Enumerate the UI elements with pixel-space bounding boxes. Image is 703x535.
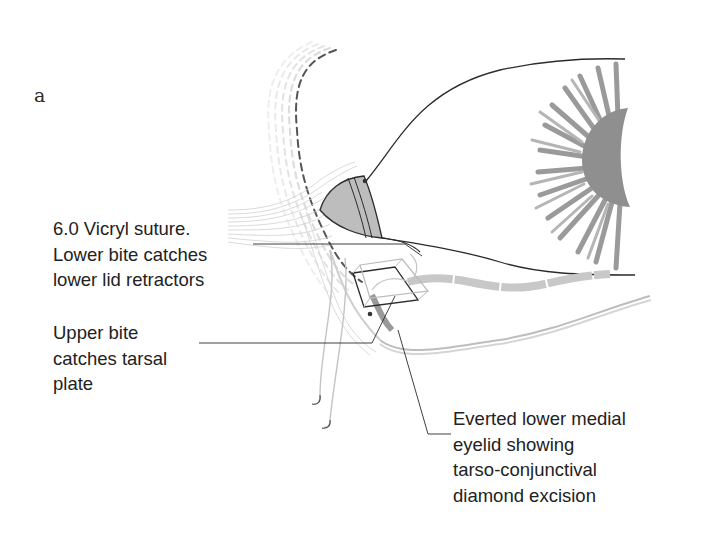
label-upper-bite: Upper bite catches tarsal plate [53, 320, 167, 397]
label-line: Lower bite catches [53, 242, 207, 268]
label-line: Everted lower medial [453, 406, 626, 432]
panel-letter: a [34, 84, 45, 106]
everted-tarsus [330, 250, 651, 354]
iris [523, 60, 630, 278]
label-line: tarso-conjunctival [453, 457, 626, 483]
suture-strands [312, 250, 346, 428]
label-vicryl-suture: 6.0 Vicryl suture. Lower bite catches lo… [53, 216, 207, 293]
label-line: Upper bite [53, 320, 167, 346]
upper-punctum-dot [363, 179, 368, 184]
caruncle [320, 176, 382, 238]
lower-punctum-dot [368, 312, 373, 317]
label-everted-eyelid: Everted lower medial eyelid showing tars… [453, 406, 626, 508]
label-line: plate [53, 371, 167, 397]
label-line: lower lid retractors [53, 267, 207, 293]
label-line: eyelid showing [453, 432, 626, 458]
label-line: catches tarsal [53, 346, 167, 372]
label-line: diamond excision [453, 483, 626, 509]
label-line: 6.0 Vicryl suture. [53, 216, 207, 242]
